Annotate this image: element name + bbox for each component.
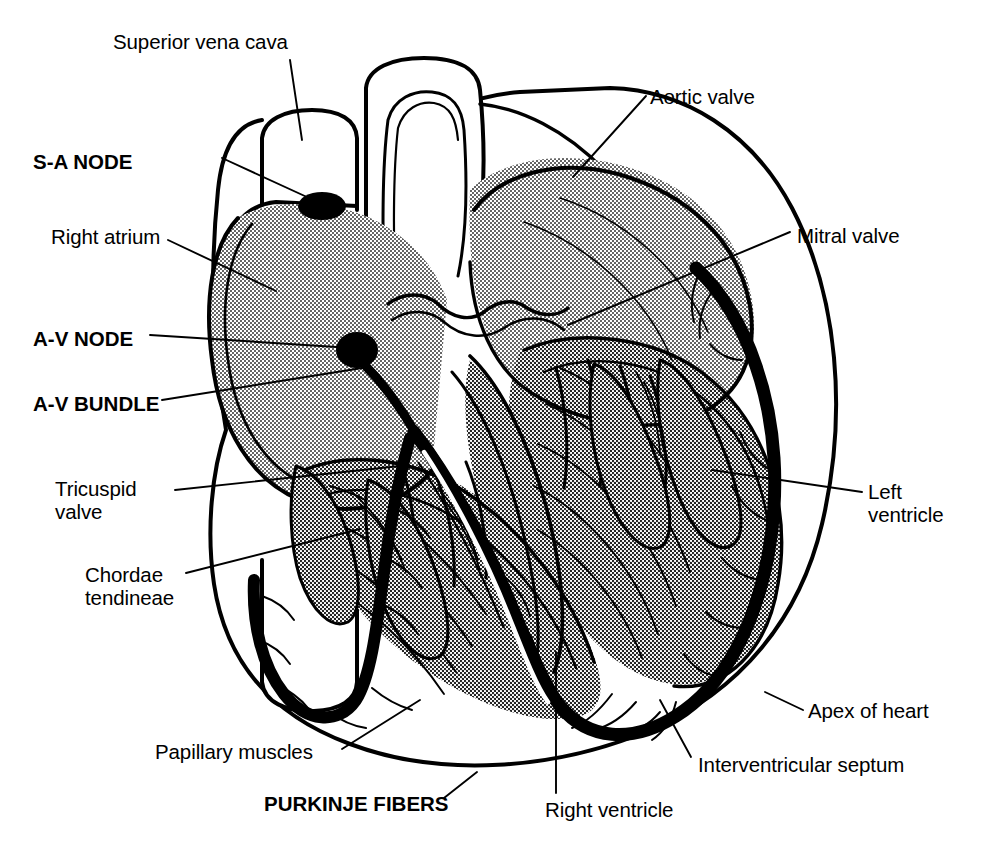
label-apex-of-heart: Apex of heart [808, 699, 929, 722]
heart-conduction-diagram: Superior vena cavaS-A NODERight atriumA-… [0, 0, 989, 855]
label-interventricular-septum: Interventricular septum [698, 753, 904, 776]
label-mitral-valve: Mitral valve [797, 224, 899, 247]
label-aortic-valve: Aortic valve [650, 85, 755, 108]
label-chordae-tendineae: Chordae tendineae [85, 563, 174, 609]
label-superior-vena-cava: Superior vena cava [113, 30, 288, 53]
label-purkinje-fibers: PURKINJE FIBERS [264, 792, 449, 815]
leader-apex-of-heart [765, 692, 803, 710]
av-node-marker [336, 332, 378, 368]
label-sa-node: S-A NODE [33, 150, 132, 173]
label-av-bundle: A-V BUNDLE [33, 392, 159, 415]
label-tricuspid-valve: Tricuspid valve [55, 477, 137, 523]
label-right-atrium: Right atrium [51, 225, 160, 248]
label-av-node: A-V NODE [33, 327, 133, 350]
leader-purkinje-fibers [444, 772, 477, 798]
label-papillary-muscles: Papillary muscles [155, 740, 313, 763]
label-left-ventricle: Left ventricle [868, 480, 943, 526]
label-right-ventricle: Right ventricle [545, 798, 673, 821]
heart-illustration [0, 0, 989, 855]
